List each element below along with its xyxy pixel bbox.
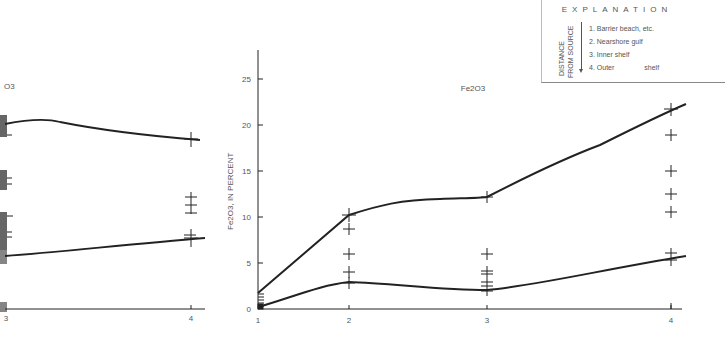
left-panel bbox=[0, 115, 205, 312]
cropped-edge-mark bbox=[0, 212, 7, 250]
legend-side-label-line2: FROM SOURCE bbox=[567, 26, 574, 79]
y-axis-label: Fe2O3, IN PERCENT bbox=[226, 153, 235, 230]
y-tick-15: 15 bbox=[242, 167, 251, 176]
left-x-tick-3: 3 bbox=[4, 314, 9, 323]
down-arrow-icon bbox=[581, 22, 582, 70]
legend-items: 1. Barrier beach, etc. 2. Nearshore gulf… bbox=[589, 22, 659, 74]
y-tick-0: 0 bbox=[247, 305, 252, 314]
lower-envelope-line bbox=[5, 238, 205, 256]
y-tick-20: 20 bbox=[242, 121, 251, 130]
legend-item: 2. Nearshore gulf bbox=[589, 35, 659, 48]
upper-envelope-line bbox=[258, 104, 686, 293]
legend-box: EXPLANATION DISTANCE FROM SOURCE 1. Barr… bbox=[541, 0, 725, 83]
legend-side-label: DISTANCE FROM SOURCE bbox=[556, 20, 584, 76]
x-tick-3: 3 bbox=[485, 316, 490, 325]
left-panel-title: O3 bbox=[4, 82, 15, 91]
lower-envelope-line bbox=[258, 256, 686, 307]
sample-markers bbox=[342, 103, 678, 309]
y-tick-10: 10 bbox=[242, 213, 251, 222]
left-x-tick-4: 4 bbox=[189, 314, 194, 323]
x-tick-4: 4 bbox=[669, 316, 674, 325]
legend-side-label-line1: DISTANCE bbox=[558, 41, 565, 76]
x-tick-2: 2 bbox=[347, 316, 352, 325]
upper-envelope-line bbox=[5, 120, 200, 140]
cropped-edge-mark bbox=[0, 115, 7, 137]
sample-markers bbox=[184, 132, 198, 247]
chart-title: Fe2O3 bbox=[461, 84, 486, 93]
cropped-edge-mark bbox=[0, 250, 7, 264]
y-tick-5: 5 bbox=[247, 259, 252, 268]
legend-item: 1. Barrier beach, etc. bbox=[589, 22, 659, 35]
x-tick-1: 1 bbox=[256, 316, 261, 325]
cropped-edge-mark bbox=[0, 170, 7, 190]
legend-title: EXPLANATION bbox=[542, 5, 692, 14]
y-tick-25: 25 bbox=[242, 75, 251, 84]
legend-item: 3. Inner shelf bbox=[589, 48, 659, 61]
legend-item: 4. Outershelf bbox=[589, 61, 659, 74]
cropped-edge-mark bbox=[0, 302, 7, 312]
